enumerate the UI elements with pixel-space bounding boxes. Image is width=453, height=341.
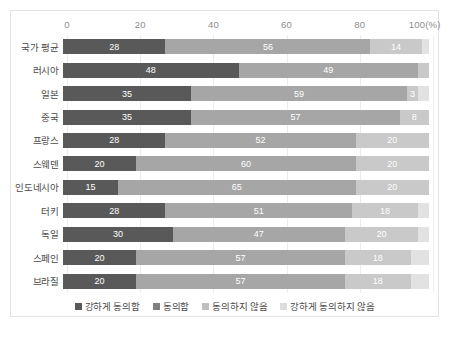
legend-label: 강하게 동의하지 않음 [290,299,374,313]
segment-value-label: 30 [113,229,123,239]
segment-value-label: 57 [235,253,245,263]
bar-segment-2: 47 [173,227,345,242]
bar-segment-3: 18 [345,274,411,289]
segment-value-label: 20 [95,276,105,286]
bar-segment-2: 60 [136,156,356,171]
segment-value-label: 20 [387,182,397,192]
bar-segment-1: 28 [63,203,165,218]
chart-container: 020406080100(%) 국가 평균285614러시아4849일본3559… [10,10,439,317]
category-label: 스웨덴 [11,157,63,171]
legend-swatch-icon [75,303,82,310]
bar-segment-4 [418,227,429,242]
bar-segment-4 [418,86,429,101]
bar-segment-3: 18 [345,250,411,265]
bar-segment-3 [418,63,429,78]
x-axis-tick-100: 100(%) [409,19,441,30]
x-axis: 020406080100(%) [67,19,433,35]
bar-row: 스페인205718 [11,246,438,269]
bar-segment-2: 65 [118,180,356,195]
bar-row: 일본35593 [11,82,438,105]
legend-swatch-icon [202,303,209,310]
legend-item[interactable]: 강하게 동의함 [75,299,140,313]
x-axis-tick-60: 60 [281,19,292,30]
bar-segment-3: 20 [345,227,418,242]
legend-label: 동의하지 않음 [212,299,267,313]
bar-segment-1: 30 [63,227,173,242]
bar-segment-2: 56 [165,39,370,54]
bar-segment-3: 20 [356,133,429,148]
segment-value-label: 20 [376,229,386,239]
bar-segment-3: 20 [356,180,429,195]
segment-value-label: 18 [373,276,383,286]
bar-row: 독일304720 [11,223,438,246]
bar-row: 프랑스285220 [11,129,438,152]
category-label: 일본 [11,87,63,101]
bar-row: 스웨덴206020 [11,152,438,175]
bar-segment-2: 49 [239,63,418,78]
bar-row: 인도네시아156520 [11,176,438,199]
segment-value-label: 47 [254,229,264,239]
segment-value-label: 52 [256,135,266,145]
bar-segment-3: 8 [400,110,429,125]
category-label: 터키 [11,204,63,218]
bar-segment-4 [418,203,429,218]
bar-row: 중국35578 [11,105,438,128]
bar-segment-2: 57 [136,250,345,265]
bar-segment-1: 35 [63,110,191,125]
bar-segment-3: 3 [407,86,418,101]
category-label: 프랑스 [11,133,63,147]
segment-value-label: 8 [412,112,417,122]
segment-value-label: 60 [241,159,251,169]
segment-value-label: 57 [235,276,245,286]
segment-value-label: 51 [254,206,264,216]
chart-legend: 강하게 동의함동의함동의하지 않음강하게 동의하지 않음 [11,299,438,313]
bar-segment-1: 15 [63,180,118,195]
segment-value-label: 35 [122,89,132,99]
bar-row: 터키285118 [11,199,438,222]
bar-segment-1: 48 [63,63,239,78]
category-label: 중국 [11,110,63,124]
segment-value-label: 48 [146,65,156,75]
segment-value-label: 14 [391,42,401,52]
bar-segment-3: 18 [352,203,418,218]
bar-row: 러시아4849 [11,58,438,81]
bar-segment-2: 57 [136,274,345,289]
bar-row: 브라질205718 [11,269,438,292]
segment-value-label: 3 [410,89,415,99]
legend-label: 동의함 [163,299,189,313]
legend-swatch-icon [153,303,160,310]
bar-segment-4 [422,39,429,54]
segment-value-label: 65 [232,182,242,192]
segment-value-label: 20 [387,159,397,169]
stacked-bar: 205718 [63,274,429,289]
segment-value-label: 20 [95,159,105,169]
plot-area: 국가 평균285614러시아4849일본35593중국35578프랑스28522… [11,35,438,293]
bar-segment-3: 20 [356,156,429,171]
stacked-bar: 35593 [63,86,429,101]
bar-segment-1: 20 [63,250,136,265]
legend-item[interactable]: 동의하지 않음 [202,299,267,313]
bar-segment-2: 57 [191,110,400,125]
legend-item[interactable]: 동의함 [153,299,189,313]
legend-swatch-icon [280,303,287,310]
category-label: 브라질 [11,274,63,288]
legend-label: 강하게 동의함 [85,299,140,313]
x-axis-tick-0: 0 [64,19,69,30]
segment-value-label: 35 [122,112,132,122]
bar-row: 국가 평균285614 [11,35,438,58]
bar-segment-4 [411,250,429,265]
bar-segment-2: 52 [165,133,355,148]
segment-value-label: 20 [95,253,105,263]
bar-segment-1: 28 [63,39,165,54]
category-label: 스페인 [11,251,63,265]
segment-value-label: 57 [290,112,300,122]
legend-item[interactable]: 강하게 동의하지 않음 [280,299,374,313]
stacked-bar: 285118 [63,203,429,218]
category-label: 러시아 [11,63,63,77]
x-axis-tick-20: 20 [135,19,146,30]
segment-value-label: 28 [109,135,119,145]
stacked-bar: 205718 [63,250,429,265]
segment-value-label: 28 [109,42,119,52]
x-axis-tick-40: 40 [208,19,219,30]
category-label: 국가 평균 [11,40,63,54]
